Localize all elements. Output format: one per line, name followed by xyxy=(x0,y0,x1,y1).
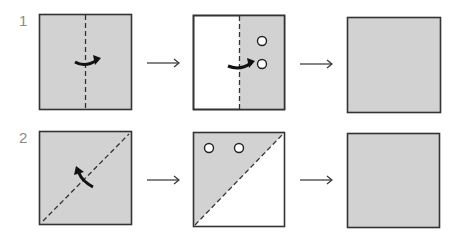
hole-circle xyxy=(235,144,244,153)
step2-panel3 xyxy=(348,134,440,228)
step1-panel2 xyxy=(194,16,285,110)
step-arrow-icon xyxy=(147,59,179,67)
step-arrow-icon xyxy=(300,60,332,68)
step1-panel1 xyxy=(40,15,132,110)
step-arrow-icon xyxy=(300,176,332,184)
hole-circle xyxy=(258,60,267,69)
step2-panel2 xyxy=(194,133,285,227)
step-arrow-icon xyxy=(147,176,179,184)
hole-circle xyxy=(258,37,267,46)
step1-panel3 xyxy=(348,18,441,113)
folding-diagram xyxy=(0,0,460,239)
hole-circle xyxy=(205,144,214,153)
step2-panel1 xyxy=(40,132,132,225)
